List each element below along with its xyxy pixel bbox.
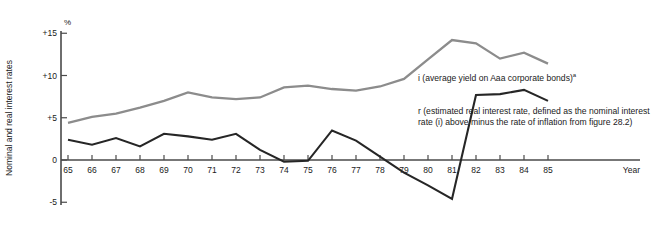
- x-tick-label-group: 6566676869707172737475767778798081828384…: [63, 165, 553, 175]
- x-tick-label: 71: [207, 165, 217, 175]
- x-tick-label: 72: [231, 165, 241, 175]
- x-tick-label: 70: [183, 165, 193, 175]
- x-tick-label: 76: [327, 165, 337, 175]
- y-tick-label: +5: [47, 113, 57, 123]
- x-tick-label: 77: [351, 165, 361, 175]
- y-tick-label: -5: [49, 197, 57, 207]
- x-axis-title: Year: [623, 165, 640, 175]
- x-tick-label: 66: [87, 165, 97, 175]
- annotation-real: r (estimated real interest rate, defined…: [418, 106, 654, 129]
- x-tick-label: 85: [543, 165, 553, 175]
- x-tick-label: 65: [63, 165, 73, 175]
- annotation-nominal-superscript: a: [573, 72, 576, 78]
- percent-unit-label: %: [64, 18, 71, 27]
- x-tick-label: 67: [111, 165, 121, 175]
- figure-container: +15+10+50-5 6566676869707172737475767778…: [0, 0, 656, 230]
- x-tick-label: 73: [255, 165, 265, 175]
- x-tick-label: 69: [159, 165, 169, 175]
- x-tick-label: 78: [375, 165, 385, 175]
- y-tick-label: +10: [43, 71, 58, 81]
- annotation-nominal-text: i (average yield on Aaa corporate bonds): [418, 73, 573, 83]
- y-tick-label-group: +15+10+50-5: [43, 28, 58, 207]
- y-tick-label: +15: [43, 28, 58, 38]
- x-tick-label: 80: [423, 165, 433, 175]
- y-tick-label: 0: [52, 155, 57, 165]
- x-tick-label: 75: [303, 165, 313, 175]
- x-tick-label: 81: [447, 165, 457, 175]
- x-tick-label: 74: [279, 165, 289, 175]
- x-tick-label: 68: [135, 165, 145, 175]
- annotation-nominal: i (average yield on Aaa corporate bonds)…: [418, 70, 648, 84]
- x-tick-label: 83: [495, 165, 505, 175]
- x-tick-label: 82: [471, 165, 481, 175]
- y-axis-title: Nominal and real interest rates: [4, 60, 14, 176]
- x-tick-label: 84: [519, 165, 529, 175]
- y-tick-group: [61, 33, 67, 202]
